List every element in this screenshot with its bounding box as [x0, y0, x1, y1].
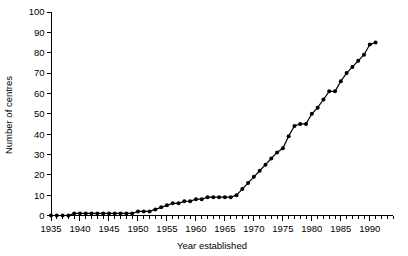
data-point: [107, 211, 111, 215]
chart-plot-area: 0102030405060708090100 19351940194519501…: [0, 0, 408, 256]
data-point: [72, 211, 76, 215]
x-tick-label: 1935: [40, 223, 61, 234]
data-point: [61, 214, 65, 218]
x-tick-label: 1960: [185, 223, 206, 234]
data-point: [292, 124, 296, 128]
data-point: [148, 209, 152, 213]
data-point: [229, 195, 233, 199]
data-point: [136, 209, 140, 213]
data-point: [345, 71, 349, 75]
y-tick-label: 90: [34, 27, 45, 38]
data-point: [362, 53, 366, 57]
data-point: [287, 134, 291, 138]
y-axis: 0102030405060708090100: [29, 6, 51, 221]
data-point: [350, 65, 354, 69]
x-axis: 1935194019451950195519601965197019751980…: [40, 216, 393, 234]
x-tick-label: 1970: [243, 223, 264, 234]
data-point: [252, 175, 256, 179]
data-point: [206, 195, 210, 199]
data-point: [211, 195, 215, 199]
x-tick-label: 1980: [301, 223, 322, 234]
data-point: [281, 146, 285, 150]
data-point: [90, 211, 94, 215]
data-point: [130, 211, 134, 215]
y-tick-label: 0: [39, 210, 44, 221]
data-point: [269, 157, 273, 161]
data-point: [113, 211, 117, 215]
data-point: [200, 197, 204, 201]
y-axis-title: Number of centres: [3, 76, 14, 154]
data-point: [101, 211, 105, 215]
x-tick-label: 1955: [156, 223, 177, 234]
y-tick-label: 10: [34, 190, 45, 201]
data-point: [339, 79, 343, 83]
data-point: [194, 197, 198, 201]
data-point: [327, 89, 331, 93]
y-tick-label: 70: [34, 67, 45, 78]
y-tick-label: 100: [29, 6, 45, 17]
x-tick-label: 1950: [127, 223, 148, 234]
data-point: [124, 211, 128, 215]
data-point: [263, 163, 267, 167]
data-point: [84, 211, 88, 215]
x-tick-label: 1990: [359, 223, 380, 234]
x-tick-label: 1940: [69, 223, 90, 234]
y-tick-label: 80: [34, 47, 45, 58]
data-point: [356, 59, 360, 63]
x-tick-label: 1965: [214, 223, 235, 234]
y-tick-label: 60: [34, 88, 45, 99]
data-point: [177, 201, 181, 205]
chart-figure: 0102030405060708090100 19351940194519501…: [0, 0, 408, 256]
data-point: [95, 211, 99, 215]
data-point: [78, 211, 82, 215]
data-point: [258, 169, 262, 173]
data-point: [275, 150, 279, 154]
data-point: [240, 187, 244, 191]
data-point: [298, 122, 302, 126]
data-point: [153, 207, 157, 211]
x-axis-title: Year established: [177, 240, 247, 251]
data-series-number-of-centres: [49, 41, 378, 218]
data-point: [223, 195, 227, 199]
y-tick-label: 30: [34, 149, 45, 160]
data-point: [321, 98, 325, 102]
data-point: [188, 199, 192, 203]
data-point: [304, 122, 308, 126]
data-point: [142, 209, 146, 213]
x-tick-label: 1985: [330, 223, 351, 234]
data-point: [159, 205, 163, 209]
x-tick-label: 1975: [272, 223, 293, 234]
data-point: [119, 211, 123, 215]
x-tick-label: 1945: [98, 223, 119, 234]
data-point: [246, 181, 250, 185]
data-point: [171, 201, 175, 205]
data-point: [368, 43, 372, 47]
y-tick-label: 40: [34, 129, 45, 140]
data-point: [316, 106, 320, 110]
data-point: [55, 214, 59, 218]
data-point: [374, 41, 378, 45]
data-point: [310, 112, 314, 116]
data-point: [217, 195, 221, 199]
data-point: [333, 89, 337, 93]
y-tick-label: 20: [34, 169, 45, 180]
data-point: [234, 193, 238, 197]
series-line: [51, 43, 376, 216]
data-point: [49, 214, 53, 218]
data-point: [182, 199, 186, 203]
data-point: [165, 203, 169, 207]
data-point: [66, 214, 70, 218]
y-tick-label: 50: [34, 108, 45, 119]
